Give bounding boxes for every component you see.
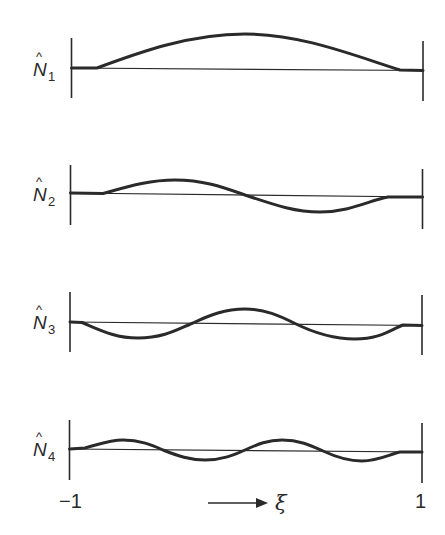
label-subscript: 1 (48, 69, 55, 84)
hat-accent: ^ (36, 302, 43, 317)
xi-axis-labels: −1 1 ξ (59, 490, 426, 515)
label-subscript: 4 (48, 449, 55, 464)
panel-n4: N ^ 4 (33, 420, 422, 483)
tick-label-right: 1 (415, 490, 426, 512)
hat-accent: ^ (36, 174, 43, 189)
hat-accent: ^ (36, 429, 43, 444)
panel-n1-label: N ^ 1 (33, 49, 55, 84)
panel-n4-label: N ^ 4 (33, 429, 55, 464)
panel-n1: N ^ 1 (33, 34, 423, 101)
direction-arrow-icon (208, 498, 268, 508)
hat-accent: ^ (36, 49, 43, 64)
label-subscript: 2 (48, 194, 55, 209)
tick-label-left: −1 (59, 490, 82, 512)
baseline (72, 68, 424, 71)
shape-curve (72, 34, 424, 71)
baseline (70, 322, 422, 326)
panel-n3: N ^ 3 (33, 292, 422, 355)
shape-curve (70, 440, 423, 461)
xi-variable-label: ξ (275, 491, 288, 515)
panel-n2-label: N ^ 2 (33, 174, 55, 209)
panel-n3-label: N ^ 3 (33, 302, 55, 337)
panel-n2: N ^ 2 (33, 165, 423, 229)
shape-functions-diagram: N ^ 1 N ^ 2 N ^ 3 N (0, 0, 445, 535)
label-subscript: 3 (48, 322, 55, 337)
